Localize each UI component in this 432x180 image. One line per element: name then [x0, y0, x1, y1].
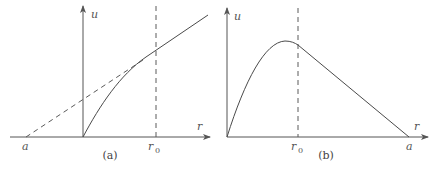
tangent-extension-dashed [26, 58, 146, 137]
r-axis-label: r [414, 120, 420, 133]
caption-b: (b) [318, 149, 334, 162]
r0-label: r 0 [291, 140, 303, 155]
panel-b: u r a r 0 (b) [227, 8, 428, 162]
u-curve [227, 41, 409, 137]
u-axis-label: u [234, 10, 241, 23]
caption-a: (a) [102, 149, 117, 162]
r-axis-label: r [197, 120, 203, 133]
svg-text:r: r [148, 140, 154, 153]
u-axis-label: u [91, 8, 98, 21]
a-label: a [22, 140, 29, 153]
svg-text:0: 0 [298, 146, 303, 155]
r0-label: r 0 [148, 140, 160, 155]
panel-a: u r a r 0 (a) [10, 6, 210, 162]
u-curve [83, 15, 208, 137]
a-label: a [406, 140, 413, 153]
svg-text:0: 0 [155, 146, 160, 155]
svg-text:r: r [291, 140, 297, 153]
figure: u r a r 0 (a) u r a r 0 (b) [0, 0, 432, 180]
